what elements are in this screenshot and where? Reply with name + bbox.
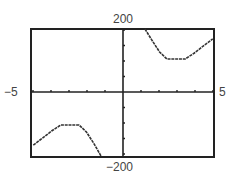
curve-left-branch <box>33 125 101 156</box>
x-max-label: 5 <box>219 86 226 98</box>
curve-right-branch <box>145 29 213 59</box>
plot-area <box>0 0 230 176</box>
y-max-label: 200 <box>113 13 133 25</box>
x-min-label: −5 <box>4 86 18 98</box>
y-min-label: −200 <box>106 161 133 173</box>
